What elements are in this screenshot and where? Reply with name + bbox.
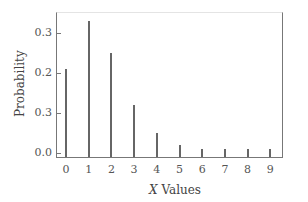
x-axis-title: X Values: [125, 183, 225, 197]
x-tick-label: 3: [126, 163, 142, 176]
plot-frame: [56, 12, 283, 158]
bar: [156, 133, 158, 157]
bar: [88, 21, 90, 157]
bar: [65, 69, 67, 157]
x-axis-title-rest: Values: [158, 183, 201, 197]
bar: [110, 53, 112, 157]
x-axis-variable: X: [149, 183, 158, 197]
x-tick-label: 6: [194, 163, 210, 176]
y-axis-title: Probability: [13, 53, 27, 117]
y-tick-label: 0.3: [16, 26, 52, 39]
x-tick-label: 7: [217, 163, 233, 176]
bar: [269, 149, 271, 157]
y-tick-label: 0.0: [16, 146, 52, 159]
x-tick-label: 1: [81, 163, 97, 176]
bar: [247, 149, 249, 157]
y-tick: [56, 73, 61, 74]
bar: [179, 145, 181, 157]
bar: [224, 149, 226, 157]
x-tick-label: 8: [240, 163, 256, 176]
x-tick-label: 2: [103, 163, 119, 176]
bar: [201, 149, 203, 157]
x-tick-label: 4: [149, 163, 165, 176]
x-tick-label: 5: [172, 163, 188, 176]
y-tick: [56, 33, 61, 34]
y-tick: [56, 153, 61, 154]
x-tick-label: 9: [262, 163, 278, 176]
y-tick: [56, 113, 61, 114]
bar: [133, 105, 135, 157]
x-tick-label: 0: [58, 163, 74, 176]
